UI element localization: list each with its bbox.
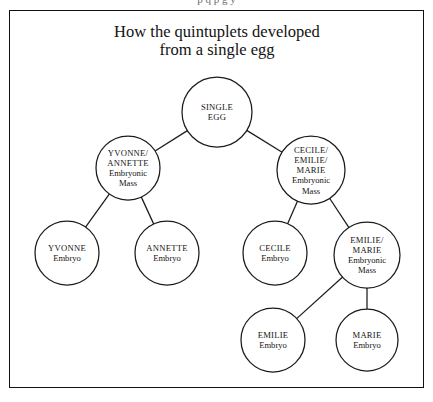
edge-emilie-marie-to-emilie [296,277,343,319]
node-label-single-egg-line-1: SINGLE [201,102,233,112]
node-label-emilie-embryo-line-2: Embryo [259,340,287,350]
node-label-annette-embryo-line-1: ANNETTE [146,243,187,253]
node-annette-embryo[interactable]: ANNETTEEmbryo [135,221,199,285]
node-label-cecile-emilie-marie-mass-line-3: MARIE [297,165,326,175]
node-label-cecile-emilie-marie-mass-line-2: EMILIE/ [294,155,328,165]
node-label-emilie-marie-mass-line-3: Embryonic [348,255,386,265]
node-label-single-egg-line-2: EGG [208,112,226,122]
node-label-yvonne-annette-mass-line-3: Embryonic [109,168,147,178]
edge-single-egg-to-yvonne-annette [155,130,188,151]
node-label-emilie-marie-mass-line-2: MARIE [353,245,382,255]
edge-single-egg-to-cecile-emilie-marie [246,130,282,152]
edge-cecile-emilie-marie-to-cecile [288,201,298,224]
node-marie-embryo[interactable]: MARIEEmbryo [336,309,398,371]
node-label-cecile-embryo-line-2: Embryo [261,253,289,263]
nodes-layer: SINGLEEGGYVONNE/ANNETTEEmbryonicMassCECI… [35,77,400,372]
node-single-egg[interactable]: SINGLEEGG [182,77,252,147]
node-label-cecile-emilie-marie-mass-line-1: CECILE/ [294,145,329,155]
figure-root: p q p g y SINGLEEGGYVONNE/ANNETTEEmbryon… [0,0,433,402]
node-label-yvonne-embryo-line-2: Embryo [53,253,81,263]
node-label-cecile-embryo-line-1: CECILE [259,243,291,253]
node-label-emilie-marie-mass-line-1: EMILIE/ [350,235,384,245]
node-label-marie-embryo-line-2: Embryo [353,340,381,350]
node-label-yvonne-annette-mass-line-2: ANNETTE [107,158,148,168]
node-emilie-marie-mass[interactable]: EMILIE/MARIEEmbryonicMass [334,222,400,288]
edge-yvonne-annette-to-annette [141,197,154,225]
title-line-2: from a single egg [159,40,274,59]
node-yvonne-annette-mass[interactable]: YVONNE/ANNETTEEmbryonicMass [96,136,160,200]
node-yvonne-embryo[interactable]: YVONNEEmbryo [35,221,99,285]
node-label-cecile-emilie-marie-mass-line-4: Embryonic [292,175,330,185]
node-label-annette-embryo-line-2: Embryo [153,253,181,263]
node-label-yvonne-embryo-line-1: YVONNE [48,243,86,253]
node-label-emilie-marie-mass-line-4: Mass [358,265,377,275]
node-label-yvonne-annette-mass-line-1: YVONNE/ [108,148,149,158]
diagram-title: How the quintuplets developed from a sin… [114,22,321,59]
edge-cecile-emilie-marie-to-emilie-marie [329,198,349,228]
node-emilie-embryo[interactable]: EMILIEEmbryo [241,308,305,372]
node-label-emilie-embryo-line-1: EMILIE [258,330,289,340]
edge-yvonne-annette-to-yvonne [85,194,109,228]
node-label-cecile-emilie-marie-mass-line-5: Mass [302,186,321,196]
quintuplet-tree-diagram: SINGLEEGGYVONNE/ANNETTEEmbryonicMassCECI… [0,0,433,402]
node-label-yvonne-annette-mass-line-4: Mass [119,178,138,188]
node-cecile-emilie-marie-mass[interactable]: CECILE/EMILIE/MARIEEmbryonicMass [277,136,345,204]
title-line-1: How the quintuplets developed [114,22,321,41]
node-cecile-embryo[interactable]: CECILEEmbryo [243,221,307,285]
node-label-marie-embryo-line-1: MARIE [353,330,382,340]
